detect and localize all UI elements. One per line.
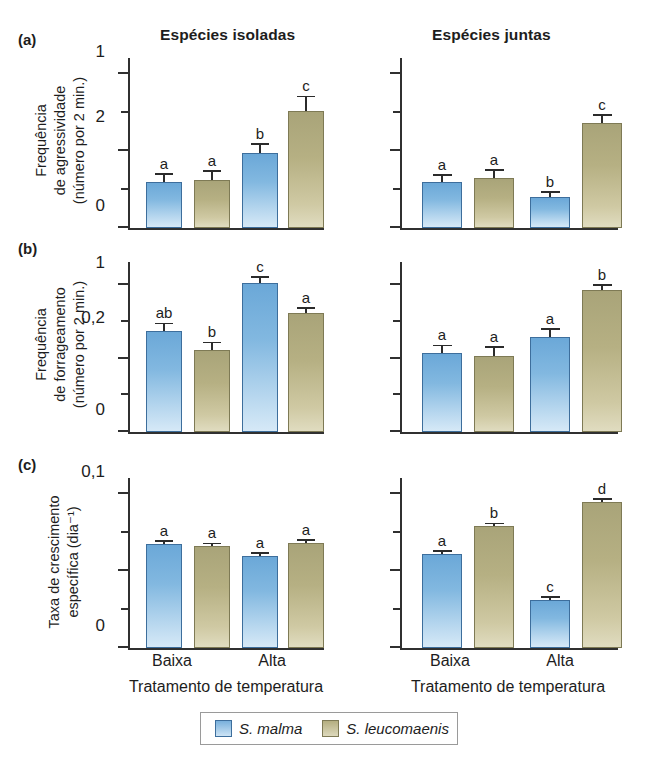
error-bar	[305, 541, 307, 543]
y-axis-tick-label: 2	[96, 107, 105, 127]
error-bar	[493, 171, 495, 178]
y-axis-label-c: Taxa de crescimentoespecífica (dia⁻¹)	[45, 464, 83, 660]
y-axis-tick-major	[390, 492, 401, 494]
error-bar-cap	[297, 96, 316, 98]
error-bar	[259, 145, 261, 153]
error-bar	[601, 500, 603, 502]
bar	[582, 290, 622, 432]
error-bar	[259, 554, 261, 556]
bar	[474, 526, 514, 648]
y-axis-tick-label: 1	[96, 42, 105, 62]
error-bar-cap	[251, 552, 270, 554]
y-axis-tick-major: 0	[118, 226, 129, 228]
plot-b-isoladas: 012abbca	[128, 262, 324, 434]
significance-label: a	[416, 326, 468, 343]
bar	[194, 180, 230, 229]
legend-item: S. malma	[215, 720, 302, 737]
significance-label: a	[416, 156, 468, 173]
significance-label: c	[282, 77, 330, 94]
y-axis-label-line: de forrageamento	[51, 252, 70, 437]
y-axis-tick-major	[390, 430, 401, 432]
error-bar	[441, 176, 443, 182]
error-bar	[163, 324, 165, 331]
significance-label: a	[282, 289, 330, 306]
y-axis-line	[128, 262, 130, 434]
error-bar-cap	[485, 169, 504, 171]
y-axis-label-line: Frequência	[32, 48, 51, 233]
x-axis-category-label: Alta	[258, 652, 286, 670]
significance-label: ab	[140, 304, 188, 321]
y-axis-label-line: Taxa de crescimento	[45, 464, 64, 660]
error-bar	[549, 193, 551, 198]
y-axis-tick-minor	[393, 608, 401, 610]
error-bar-cap	[155, 540, 174, 542]
significance-label: a	[236, 534, 284, 551]
bar	[194, 546, 230, 648]
y-axis-line	[128, 478, 130, 650]
error-bar	[211, 544, 213, 546]
legend-swatch-blue	[215, 720, 232, 737]
bar	[146, 331, 182, 432]
y-axis-tick-minor	[121, 320, 129, 322]
bar	[146, 182, 182, 228]
significance-label: a	[188, 152, 236, 169]
bar	[474, 356, 514, 432]
significance-label: a	[468, 151, 520, 168]
y-axis-tick-major	[390, 149, 401, 151]
bar	[582, 123, 622, 228]
error-bar-cap	[251, 143, 270, 145]
error-bar	[601, 116, 603, 123]
bar	[422, 353, 462, 432]
error-bar	[441, 346, 443, 353]
error-bar	[259, 278, 261, 283]
significance-label: a	[468, 328, 520, 345]
significance-label: a	[416, 532, 468, 549]
significance-label: b	[576, 266, 628, 283]
x-axis-category-label: Alta	[546, 652, 574, 670]
error-bar-cap	[203, 543, 222, 545]
error-bar-cap	[297, 539, 316, 541]
x-axis-category-label: Baixa	[430, 652, 470, 670]
legend-swatch-olive	[322, 720, 339, 737]
y-axis-tick-major	[390, 569, 401, 571]
error-bar-cap	[541, 596, 560, 598]
plot-b-juntas: aaab	[400, 262, 618, 434]
y-axis-tick-major	[390, 72, 401, 74]
bar	[530, 600, 570, 649]
error-bar	[163, 175, 165, 182]
error-bar-cap	[433, 345, 452, 347]
legend: S. malmaS. leucomaenis	[200, 712, 458, 745]
bar	[530, 197, 570, 228]
y-axis-label-b: Frequênciade forrageamento(número por 2 …	[32, 252, 89, 437]
x-axis-title: Tratamento de temperatura	[411, 678, 605, 696]
y-axis-label-line: (número por 2 min.)	[70, 48, 89, 233]
y-axis-tick-minor	[393, 188, 401, 190]
plot-c-juntas: abcd	[400, 478, 618, 650]
y-axis-tick-major: 1	[118, 357, 129, 359]
significance-label: a	[188, 524, 236, 541]
significance-label: b	[188, 323, 236, 340]
bar	[288, 111, 324, 228]
y-axis-tick-label: 0	[96, 616, 105, 636]
panel-row-c: (c) Taxa de crescimentoespecífica (dia⁻¹…	[0, 478, 649, 668]
bar	[194, 350, 230, 432]
column-header-isoladas: Espécies isoladas	[160, 26, 295, 44]
significance-label: a	[140, 522, 188, 539]
figure-root: Espécies isoladas Espécies juntas (a) Fr…	[0, 0, 649, 767]
y-axis-tick-minor	[121, 608, 129, 610]
error-bar-cap	[541, 191, 560, 193]
y-axis-tick-label: 0	[96, 196, 105, 216]
significance-label: a	[524, 310, 576, 327]
significance-label: b	[236, 125, 284, 142]
y-axis-line	[400, 58, 402, 230]
significance-label: b	[524, 173, 576, 190]
error-bar	[493, 524, 495, 526]
error-bar-cap	[251, 276, 270, 278]
y-axis-label-line: Frequência	[32, 252, 51, 437]
y-axis-tick-minor	[121, 393, 129, 395]
error-bar	[163, 542, 165, 544]
error-bar-cap	[541, 328, 560, 330]
y-axis-tick-label: 1	[96, 253, 105, 273]
significance-label: b	[468, 504, 520, 521]
x-axis-title: Tratamento de temperatura	[129, 678, 323, 696]
